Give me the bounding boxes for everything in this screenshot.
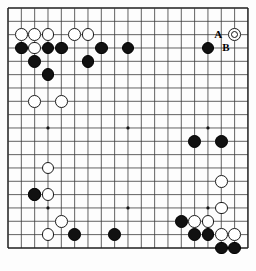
black-stone [215,135,228,148]
black-stone [68,228,81,241]
black-stone [95,42,108,55]
white-stone [15,28,28,41]
black-stone [108,228,121,241]
black-stone [28,55,41,68]
white-stone [228,228,241,241]
white-stone [228,28,241,41]
white-stone [215,202,228,215]
white-stone [28,28,41,41]
black-stone [82,55,95,68]
black-stone [175,215,188,228]
black-stone [188,228,201,241]
point-label-a: A [214,29,222,40]
white-stone [188,215,201,228]
white-stone [68,28,81,41]
black-stone [215,242,228,255]
black-stone [15,42,28,55]
white-stone [55,215,68,228]
go-diagram: A B [0,0,256,271]
point-label-b: B [222,42,229,53]
white-stone [215,228,228,241]
white-stone [55,95,68,108]
black-stone [28,188,41,201]
white-stone [215,175,228,188]
white-stone [202,215,215,228]
black-stone [55,42,68,55]
white-stone [28,95,41,108]
black-stone [188,135,201,148]
